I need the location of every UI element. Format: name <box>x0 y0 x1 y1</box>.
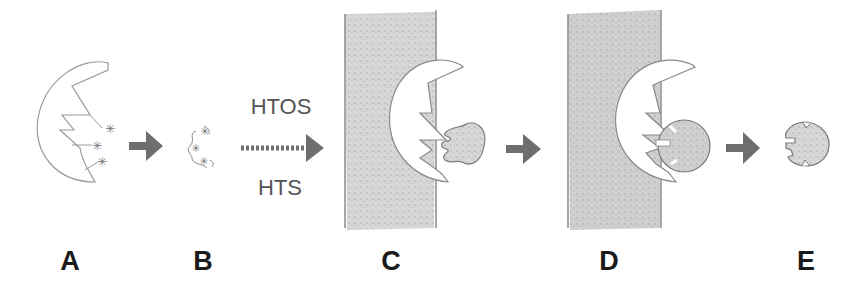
receptor-a-icon: ✳ ✳ ✳ <box>37 62 115 182</box>
screening-arrow-icon <box>241 134 324 162</box>
svg-text:✳: ✳ <box>199 155 208 168</box>
diagram-canvas: ✳ ✳ ✳ ✳ ✳ ✳ <box>0 0 865 288</box>
step-label-b: B <box>193 246 213 277</box>
diagram-graphics: ✳ ✳ ✳ ✳ ✳ ✳ <box>0 0 865 288</box>
arrow-a-to-b-icon <box>129 131 163 161</box>
step-label-d: D <box>599 246 619 277</box>
arrow-d-to-e-icon <box>726 132 760 164</box>
step-label-c: C <box>381 246 401 277</box>
svg-text:✳: ✳ <box>92 139 102 153</box>
step-label-e: E <box>797 246 815 277</box>
svg-text:✳: ✳ <box>97 155 107 169</box>
fragments-b-icon: ✳ ✳ ✳ <box>188 125 213 168</box>
ligand-e-icon <box>786 122 829 166</box>
arrow-label-top: HTOS <box>251 94 312 120</box>
svg-text:✳: ✳ <box>200 125 209 138</box>
svg-text:✳: ✳ <box>191 142 200 155</box>
arrow-c-to-d-icon <box>506 134 541 164</box>
step-label-a: A <box>60 246 80 277</box>
arrow-label-bottom: HTS <box>258 175 302 201</box>
svg-text:✳: ✳ <box>105 122 115 136</box>
ligand-c-icon <box>442 123 485 164</box>
ligand-d-icon <box>656 120 710 172</box>
